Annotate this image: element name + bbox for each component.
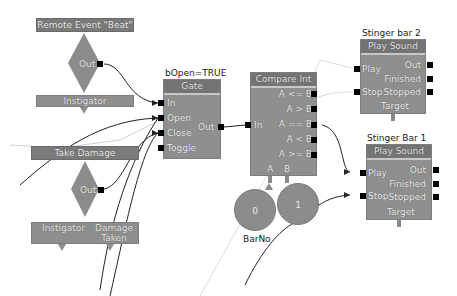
gate-in-label: In xyxy=(167,98,175,108)
int-variable-0-value: 0 xyxy=(252,206,258,216)
compare-ge-label: A >= B xyxy=(278,149,312,159)
target-link-stub[interactable] xyxy=(397,220,401,227)
take-damage-out-label: Out xyxy=(80,185,96,195)
damage-taken-var[interactable]: Damage Taken xyxy=(94,223,134,243)
stinger-1-play-label: Play xyxy=(368,168,387,178)
stinger-1-stop-port[interactable] xyxy=(360,193,366,199)
stinger-1-out-label: Out xyxy=(390,165,426,175)
compare-ge-port[interactable] xyxy=(311,152,317,158)
compare-gt-label: A > B xyxy=(278,104,312,114)
var-a-link-stub[interactable] xyxy=(268,176,272,183)
gate-title: Gate xyxy=(164,80,220,95)
gate-close-label: Close xyxy=(167,128,192,138)
stinger-1-stopped-port[interactable] xyxy=(433,194,439,200)
stinger-1-out-port[interactable] xyxy=(433,167,439,173)
stinger-2-stopped-label: Stopped xyxy=(380,87,421,97)
target-link-stub[interactable] xyxy=(391,114,395,121)
stinger-1-finished-port[interactable] xyxy=(433,181,439,187)
stinger-2-stop-port[interactable] xyxy=(354,89,360,95)
gate-out-label: Out xyxy=(198,122,214,132)
stinger-2-stopped-port[interactable] xyxy=(427,89,433,95)
stinger-2-play-port[interactable] xyxy=(354,66,360,72)
gate-close-port[interactable] xyxy=(158,130,164,136)
stinger-2-finished-label: Finished xyxy=(380,74,421,84)
gate-open-label: Open xyxy=(167,113,191,123)
compare-le-port[interactable] xyxy=(311,91,317,97)
stinger-2-target-var[interactable]: Target xyxy=(381,101,409,111)
take-damage-title[interactable]: Take Damage xyxy=(31,146,139,160)
stinger-2-out-label: Out xyxy=(385,60,421,70)
var-link-arrow-icon xyxy=(106,244,114,252)
int-variable-0-name: BarNo xyxy=(243,234,271,244)
remote-event-out-label: Out xyxy=(79,59,95,69)
remote-event-instigator[interactable]: Instigator xyxy=(36,95,134,107)
gate-out-port[interactable] xyxy=(218,124,224,130)
compare-lt-label: A < B xyxy=(278,134,312,144)
var-link-arrow-icon xyxy=(58,244,66,252)
play-sound-1-title: Play Sound xyxy=(367,145,431,160)
remote-event-out-port[interactable] xyxy=(97,61,103,67)
compare-var-b[interactable]: B xyxy=(284,164,290,174)
stinger-1-stopped-label: Stopped xyxy=(385,192,426,202)
gate-toggle-label: Toggle xyxy=(167,143,196,153)
gate-in-port[interactable] xyxy=(158,100,164,106)
var-link-arrow-icon xyxy=(80,107,88,115)
compare-in-label: In xyxy=(254,120,262,130)
stinger-2-out-port[interactable] xyxy=(427,62,433,68)
var-b-link-stub[interactable] xyxy=(285,176,289,183)
stinger-bar-2-caption: Stinger bar 2 xyxy=(362,28,421,38)
compare-lt-port[interactable] xyxy=(311,137,317,143)
compare-eq-port[interactable] xyxy=(311,122,317,128)
stinger-bar-1-caption: Stinger Bar 1 xyxy=(367,133,426,143)
remote-event-title[interactable]: Remote Event "Beat" xyxy=(36,18,134,32)
int-variable-1-value: 1 xyxy=(295,200,301,210)
stinger-2-play-label: Play xyxy=(362,64,381,74)
take-damage-out-port[interactable] xyxy=(98,187,104,193)
play-sound-2-title: Play Sound xyxy=(361,40,425,55)
compare-in-port[interactable] xyxy=(245,122,251,128)
stinger-1-play-port[interactable] xyxy=(360,170,366,176)
gate-open-port[interactable] xyxy=(158,115,164,121)
compare-le-label: A <= B xyxy=(278,89,312,99)
int-variable-0[interactable]: 0 xyxy=(234,189,276,231)
compare-gt-port[interactable] xyxy=(311,106,317,112)
int-variable-1[interactable]: 1 xyxy=(277,183,319,225)
compare-int-title: Compare Int xyxy=(251,73,316,88)
stinger-2-finished-port[interactable] xyxy=(427,76,433,82)
gate-caption: bOpen=TRUE xyxy=(165,68,226,78)
var-link-arrow-icon xyxy=(265,183,273,191)
gate-toggle-port[interactable] xyxy=(158,145,164,151)
stinger-1-target-var[interactable]: Target xyxy=(387,207,415,217)
take-damage-vars: Instigator Damage Taken xyxy=(31,222,139,244)
instigator-var[interactable]: Instigator xyxy=(42,223,85,234)
compare-eq-label: A == B xyxy=(278,119,312,129)
stinger-1-finished-label: Finished xyxy=(385,179,426,189)
compare-var-a[interactable]: A xyxy=(267,164,273,174)
